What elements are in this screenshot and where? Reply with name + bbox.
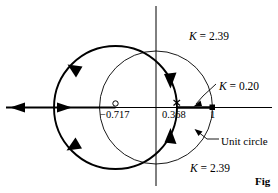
tick-label-zero: −0.717 (100, 110, 130, 121)
k-right-operator: = (227, 80, 239, 92)
k-top-symbol: K (189, 30, 197, 42)
k-right-value: 0.20 (239, 80, 259, 92)
tick-label-one: 1 (210, 110, 215, 121)
figure-caption-label: Fig (255, 176, 270, 187)
arrowhead-locus-lower-right (165, 128, 177, 144)
k-top-operator: = (197, 30, 209, 42)
k-bottom-operator: = (198, 162, 210, 174)
arrowhead-real-right (57, 103, 72, 113)
annotation-unit-circle: Unit circle (221, 136, 268, 147)
annotation-k-bottom: K = 2.39 (190, 163, 230, 175)
k-top-value: 2.39 (209, 30, 229, 42)
annotation-k-top: K = 2.39 (189, 31, 229, 43)
arrowhead-locus-lower-left (67, 138, 83, 151)
tick-label-pole: 0.368 (162, 110, 186, 121)
arrowhead-locus-upper-right (164, 73, 177, 89)
root-locus-figure: K = 2.39 K = 2.39 K = 0.20 −0.717 0.368 … (0, 0, 278, 193)
root-locus-plot (0, 0, 278, 193)
unit-circle-leader-line (195, 129, 220, 139)
arrowhead-locus-upper-left (68, 65, 83, 78)
annotation-k-right: K = 0.20 (219, 81, 259, 93)
k-bottom-symbol: K (190, 162, 198, 174)
open-loop-zero-marker (113, 101, 118, 106)
arrowhead-real-left (10, 103, 25, 113)
k-right-symbol: K (219, 80, 227, 92)
k-bottom-value: 2.39 (210, 162, 230, 174)
